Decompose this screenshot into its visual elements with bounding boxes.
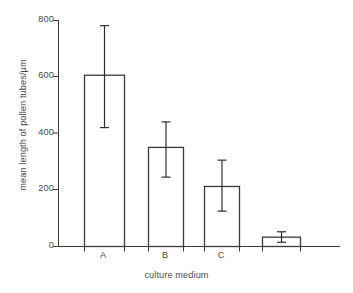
y-tick-label-600: 600 bbox=[28, 70, 54, 80]
bar-chart-figure: mean length of pollen tubes/µm 800 600 4… bbox=[0, 0, 353, 293]
x-axis-title: culture medium bbox=[0, 270, 353, 280]
y-axis-title-container: mean length of pollen tubes/µm bbox=[13, 0, 33, 250]
error-bars-layer bbox=[100, 26, 286, 243]
y-tick-label-400: 400 bbox=[28, 127, 54, 137]
y-tick-label-0: 0 bbox=[28, 240, 54, 250]
x-category-label-b: B bbox=[150, 250, 180, 260]
y-tick-label-200: 200 bbox=[28, 183, 54, 193]
bars-layer bbox=[85, 75, 301, 246]
x-category-label-a: A bbox=[88, 250, 118, 260]
x-category-label-c: C bbox=[206, 250, 236, 260]
y-tick-label-800: 800 bbox=[28, 14, 54, 24]
y-axis-title: mean length of pollen tubes/µm bbox=[18, 59, 28, 190]
